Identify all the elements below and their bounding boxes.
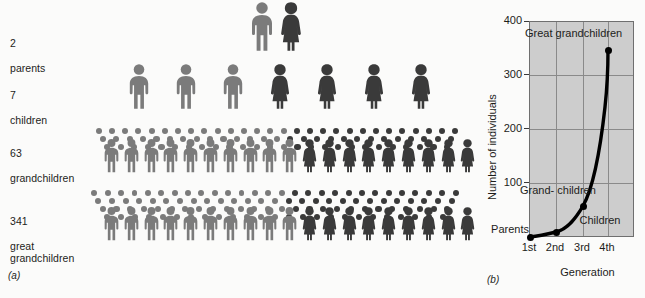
pictogram-figure <box>359 136 378 176</box>
pictogram-head <box>122 128 128 134</box>
pictogram-figure <box>280 136 299 176</box>
pictogram-head <box>265 190 271 196</box>
pictogram-head <box>426 190 432 196</box>
pictogram-head <box>172 190 178 196</box>
pictogram-head <box>145 190 151 196</box>
pictogram-head <box>319 190 325 196</box>
pictogram-figure <box>181 136 200 176</box>
y-tick-mark-100 <box>524 182 529 183</box>
pictogram-head <box>201 128 207 134</box>
pictogram-figure <box>439 136 458 176</box>
pictogram-head <box>228 128 234 134</box>
pictogram-figure <box>241 136 260 176</box>
pictogram-row-parents <box>0 0 470 52</box>
pictogram-figure <box>221 204 240 244</box>
annotation-parents: Parents <box>471 223 529 236</box>
pictogram-figure <box>220 64 246 110</box>
pictogram-figure <box>359 204 378 244</box>
pictogram-head <box>118 190 124 196</box>
pictogram-figure <box>314 64 340 110</box>
pictogram-head <box>307 128 313 134</box>
datapoint-great-grandchildren <box>605 47 612 54</box>
pictogram-figure <box>379 136 398 176</box>
pictogram-figure <box>320 136 339 176</box>
pictogram-head <box>175 128 181 134</box>
pictogram-head <box>332 190 338 196</box>
x-axis-title: Generation <box>500 266 645 278</box>
pictogram-figure <box>379 204 398 244</box>
pictogram-figure <box>320 204 339 244</box>
pictogram-head <box>239 190 245 196</box>
pictogram-head <box>91 190 97 196</box>
pictogram-figure <box>181 204 200 244</box>
pictogram-head <box>372 190 378 196</box>
pictogram-figure <box>122 204 141 244</box>
pictogram-figure <box>267 64 293 110</box>
pictogram-head <box>292 190 298 196</box>
pictogram-head <box>215 128 221 134</box>
pictogram-head <box>279 190 285 196</box>
annotation-great-grandchildren: Great grandchildren <box>525 27 603 40</box>
pictogram-head <box>212 190 218 196</box>
pictogram-figure <box>126 64 152 110</box>
pictogram-figure <box>399 136 418 176</box>
pictogram-figure <box>439 204 458 244</box>
pictogram-head <box>185 190 191 196</box>
pictogram-head <box>452 128 458 134</box>
panel-a-caption: (a) <box>8 270 20 281</box>
pictogram-head <box>360 128 366 134</box>
pictogram-figure <box>241 204 260 244</box>
pictogram-head <box>439 128 445 134</box>
pictogram-head <box>426 128 432 134</box>
pictogram-figure <box>340 204 359 244</box>
pictogram-row-children <box>0 58 470 110</box>
pictogram-head <box>346 190 352 196</box>
pictogram-head <box>305 190 311 196</box>
pictogram-figure <box>300 136 319 176</box>
y-tick-label-300: 300 <box>492 68 522 80</box>
pictogram-figure <box>260 204 279 244</box>
pictogram-head <box>294 128 300 134</box>
x-tick-label-2nd: 2nd <box>540 241 570 253</box>
pictogram-head <box>105 190 111 196</box>
pictogram-head <box>158 190 164 196</box>
y-tick-label-200: 200 <box>492 122 522 134</box>
pictogram-head <box>453 190 459 196</box>
pictogram-figure <box>142 204 161 244</box>
pictogram-figure <box>408 64 434 110</box>
pictogram-head <box>333 128 339 134</box>
pictogram-head <box>252 190 258 196</box>
pictogram-head <box>412 190 418 196</box>
pictogram-head <box>254 128 260 134</box>
pictogram-head <box>281 128 287 134</box>
y-tick-mark-200 <box>524 128 529 129</box>
pictogram-head <box>413 128 419 134</box>
pictogram-head <box>198 190 204 196</box>
pictogram-figure <box>248 2 276 52</box>
y-tick-mark-400 <box>524 21 529 22</box>
pictogram-figure <box>340 136 359 176</box>
pictogram-head <box>373 128 379 134</box>
pictogram-figure <box>399 204 418 244</box>
y-tick-label-400: 400 <box>492 14 522 26</box>
pictogram-figure <box>277 2 305 52</box>
pictogram-head <box>399 128 405 134</box>
pictogram-figure <box>419 204 438 244</box>
pictogram-head <box>347 128 353 134</box>
pictogram-row-grandchildren <box>0 118 470 176</box>
pictogram-figure <box>102 204 121 244</box>
pictogram-figure <box>280 204 299 244</box>
plot-area: Great grandchildren Grand- children Chil… <box>529 21 634 237</box>
y-tick-label-100: 100 <box>492 176 522 188</box>
annotation-grandchildren: Grand- children <box>520 184 578 197</box>
pictogram-head <box>109 128 115 134</box>
pictogram-head <box>188 128 194 134</box>
pictogram-head <box>267 128 273 134</box>
x-tick-label-4th: 4th <box>592 241 622 253</box>
pictogram-figure <box>201 136 220 176</box>
pictogram-figure <box>122 136 141 176</box>
pictogram-figure <box>361 64 387 110</box>
pictogram-head <box>399 190 405 196</box>
pictogram-figure <box>260 136 279 176</box>
pictogram-head <box>241 128 247 134</box>
